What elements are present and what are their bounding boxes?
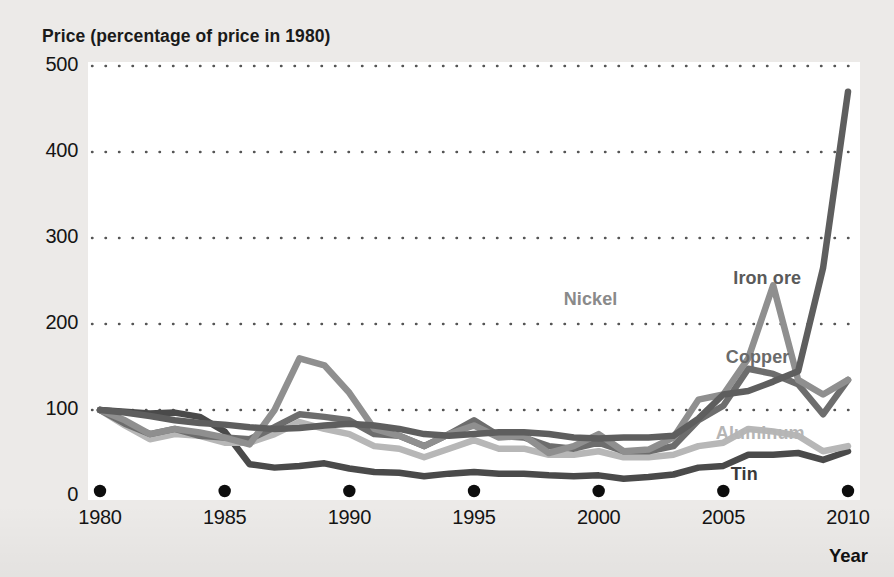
- x-axis-dot: [94, 485, 106, 497]
- x-tick-label: 2005: [683, 506, 763, 529]
- series-label-copper: Copper: [726, 347, 790, 368]
- y-tick-label: 0: [8, 483, 78, 506]
- y-tick-label: 400: [8, 139, 78, 162]
- series-label-tin: Tin: [731, 464, 758, 485]
- x-axis-title: Year: [829, 545, 868, 567]
- y-tick-label: 100: [8, 397, 78, 420]
- y-tick-label: 200: [8, 311, 78, 334]
- x-axis-dot: [717, 485, 729, 497]
- x-tick-label: 2010: [808, 506, 888, 529]
- y-tick-label: 300: [8, 225, 78, 248]
- x-axis-dot: [842, 485, 854, 497]
- x-tick-label: 1980: [60, 506, 140, 529]
- x-axis-markers: [94, 485, 854, 497]
- x-tick-label: 1990: [309, 506, 389, 529]
- x-axis-dot: [218, 485, 230, 497]
- y-tick-label: 500: [8, 53, 78, 76]
- series-label-nickel: Nickel: [564, 289, 618, 310]
- x-tick-label: 1995: [434, 506, 514, 529]
- x-tick-label: 1985: [185, 506, 265, 529]
- x-tick-label: 2000: [559, 506, 639, 529]
- series-label-aluminum: Aluminum: [716, 423, 805, 444]
- chart-figure: Price (percentage of price in 1980) 0100…: [0, 0, 894, 577]
- x-axis-dot: [592, 485, 604, 497]
- x-axis-dot: [343, 485, 355, 497]
- x-axis-dot: [468, 485, 480, 497]
- series-label-iron-ore: Iron ore: [733, 268, 801, 289]
